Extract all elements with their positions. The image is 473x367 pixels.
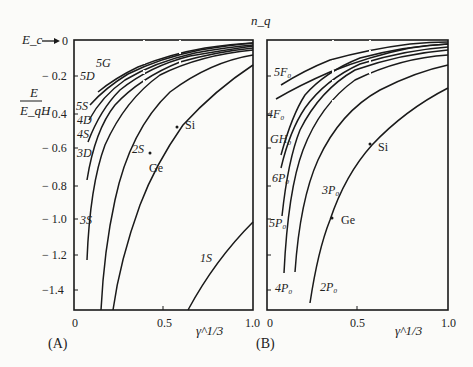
y-tick-6: − 1.2 [42, 248, 67, 262]
label-5S: 5S [76, 99, 88, 113]
ec-label: E_c [21, 32, 42, 47]
y-tick-3: − 0.6 [42, 141, 67, 155]
x-tick-b-1: 0.5 [350, 316, 365, 330]
panel-a-gap-lines [144, 40, 180, 120]
label-4S: 4S [77, 127, 89, 141]
label-4F0: 4F₀ [267, 107, 285, 121]
si-marker-b [369, 143, 372, 146]
label-6P0: 6P₀ [272, 171, 290, 185]
x-axis-title-b: γ^1/3 [395, 323, 423, 338]
curve-1S [188, 222, 253, 310]
label-2S: 2S [132, 142, 144, 156]
label-5F0: 5F₀ [274, 65, 292, 79]
curve-3S [101, 55, 253, 310]
curve-4S [87, 48, 253, 180]
ge-marker-b [331, 217, 334, 220]
label-3S: 3S [79, 213, 92, 227]
si-label-a: Si [185, 118, 196, 132]
si-marker-a [176, 126, 179, 129]
x-axis-title-a: γ^1/3 [196, 323, 224, 338]
panel-b-label: (B) [256, 336, 275, 352]
panel-b-frame [267, 40, 448, 310]
panel-b: 5F₀ 4F₀ GH₀ 6P₀ 5P₀ 4P₀ 3P₀ 2P₀ Si Ge 0 … [256, 40, 456, 352]
y-tick-4: − 0.8 [42, 179, 67, 193]
figure-canvas: n_q E_c E E_qH 0 − 0.2 − 0.4 − 0.6 − 0.8… [0, 0, 473, 367]
y-tick-1: − 0.2 [42, 69, 67, 83]
label-5G: 5G [96, 56, 111, 70]
label-4P0: 4P₀ [275, 281, 293, 295]
x-tick-b-2: 1.0 [441, 316, 456, 330]
panel-a: 5G 5D 5S 4D 4S 3D 3S 2S 1S Si Ge 0 0.5 1… [48, 40, 260, 352]
panel-a-frame [74, 40, 253, 310]
arrow-right-icon [42, 38, 60, 44]
y-axis-title-numerator: E [29, 85, 38, 100]
ge-label-b: Ge [341, 213, 355, 227]
x-tick-a-1: 0.5 [157, 316, 172, 330]
curve-3P0 [295, 65, 448, 272]
label-3D: 3D [76, 146, 92, 160]
ge-marker-a [149, 152, 152, 155]
label-4D: 4D [77, 113, 92, 127]
x-tick-b-0: 0 [267, 316, 273, 330]
ge-label-a: Ge [149, 161, 163, 175]
si-label-b: Si [378, 140, 389, 154]
y-tick-5: − 1.0 [42, 212, 67, 226]
y-tick-2: − 0.4 [42, 107, 67, 121]
y-tick-labels: 0 − 0.2 − 0.4 − 0.6 − 0.8 − 1.0 − 1.2 −1… [42, 34, 68, 297]
label-5D: 5D [80, 69, 95, 83]
label-GH0: GH₀ [270, 132, 292, 146]
label-3P0: 3P₀ [321, 183, 340, 197]
label-1S: 1S [200, 251, 212, 265]
y-tick-0: 0 [62, 34, 68, 48]
label-5P0: 5P₀ [269, 216, 287, 230]
x-tick-a-2: 1.0 [245, 316, 260, 330]
label-2P0: 2P₀ [320, 280, 338, 294]
y-tick-7: −1.4 [42, 283, 64, 297]
panel-a-label: (A) [48, 336, 68, 352]
curve-6P0 [281, 47, 448, 168]
curve-2S [113, 65, 253, 310]
curve-5F0 [281, 42, 448, 85]
x-tick-a-0: 0 [72, 316, 78, 330]
curve-4P0 [284, 55, 448, 273]
top-title: n_q [251, 13, 271, 28]
